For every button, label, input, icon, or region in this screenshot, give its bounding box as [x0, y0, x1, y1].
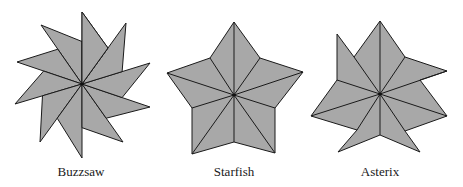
asterix-label: Asterix — [361, 164, 399, 180]
center-dot — [80, 82, 83, 85]
asterix-shape — [311, 21, 447, 152]
buzzsaw-label: Buzzsaw — [58, 164, 105, 180]
starfish-label: Starfish — [214, 164, 254, 180]
outline — [167, 22, 303, 154]
outline — [311, 21, 447, 152]
starfish-shape — [167, 22, 303, 154]
center-dot — [232, 93, 235, 96]
buzzsaw-shape — [15, 12, 150, 158]
figure-canvas — [0, 0, 463, 187]
center-dot — [378, 92, 381, 95]
